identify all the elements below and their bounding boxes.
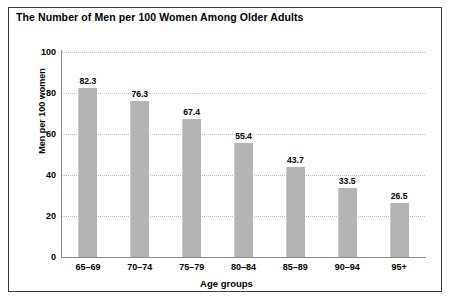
x-tick-label: 70–74: [112, 262, 168, 272]
y-axis-label: Men per 100 women: [37, 51, 47, 171]
bar-value-label: 67.4: [170, 107, 214, 117]
chart-figure: The Number of Men per 100 Women Among Ol…: [0, 0, 453, 307]
x-axis-line: [61, 257, 426, 258]
bar-value-label: 26.5: [377, 191, 421, 201]
bar: [338, 188, 357, 257]
y-tick-label: 100: [10, 47, 56, 57]
x-tick-label: 80–84: [216, 262, 272, 272]
plot-area: [62, 52, 425, 257]
x-tick-label: 95+: [371, 262, 427, 272]
x-tick-label: 75–79: [164, 262, 220, 272]
y-tick-label: 60: [10, 129, 56, 139]
x-axis-label: Age groups: [0, 278, 453, 289]
y-tick-label: 40: [10, 170, 56, 180]
bar-value-label: 82.3: [66, 76, 110, 86]
x-tick-label: 65–69: [60, 262, 116, 272]
chart-title: The Number of Men per 100 Women Among Ol…: [16, 11, 304, 23]
gridline: [62, 52, 425, 53]
y-axis-ticks: 020406080100: [8, 0, 56, 307]
bar: [130, 101, 149, 257]
bar: [286, 167, 305, 257]
bar-value-label: 55.4: [222, 131, 266, 141]
bar: [182, 119, 201, 257]
y-tick-label: 80: [10, 88, 56, 98]
bar-value-label: 76.3: [118, 89, 162, 99]
y-tick-label: 0: [10, 252, 56, 262]
bar: [390, 203, 409, 257]
y-tick-label: 20: [10, 211, 56, 221]
gridline: [62, 93, 425, 94]
x-tick-label: 85–89: [267, 262, 323, 272]
bar: [234, 143, 253, 257]
bar-value-label: 33.5: [325, 176, 369, 186]
bar-value-label: 43.7: [273, 155, 317, 165]
bar: [78, 88, 97, 257]
x-tick-label: 90–94: [319, 262, 375, 272]
